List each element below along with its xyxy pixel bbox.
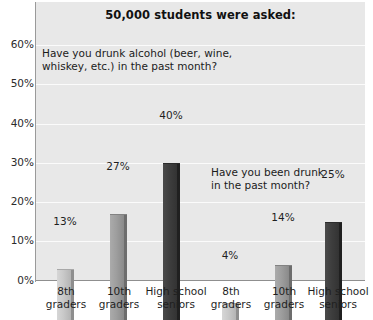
x-label-line2: graders (91, 298, 147, 311)
x-label-line1: 10th (91, 285, 147, 298)
y-tick-20: 20% (2, 196, 34, 206)
bar-cap (57, 269, 74, 270)
bar-value-label: 27% (95, 161, 141, 172)
y-tick-40: 40% (2, 118, 34, 128)
gridline-20 (36, 202, 365, 203)
x-label-group1-8th: 8th graders (38, 285, 94, 310)
x-label-group2-8th: 8th graders (203, 285, 259, 310)
y-tick-30: 30% (2, 157, 34, 167)
question-drunk-line2: in the past month? (211, 179, 341, 192)
x-label-group2-seniors: High school seniors (302, 285, 373, 310)
chart-title: 50,000 students were asked: (36, 8, 365, 22)
x-label-group1-seniors: High school seniors (140, 285, 212, 310)
x-label-line1: High school (140, 285, 212, 298)
question-alcohol-line2: whiskey, etc.) in the past month? (42, 60, 247, 73)
gridline-30 (36, 163, 365, 164)
gridline-50 (36, 84, 365, 85)
x-label-line1: 8th (38, 285, 94, 298)
bar-cap (110, 214, 127, 215)
x-label-line1: High school (302, 285, 373, 298)
gridline-40 (36, 124, 365, 125)
x-label-line2: seniors (140, 298, 212, 311)
x-label-group1-10th: 10th graders (91, 285, 147, 310)
bar-value-label: 14% (260, 212, 306, 223)
y-tick-50: 50% (2, 78, 34, 88)
bar-cap (325, 222, 342, 223)
y-tick-0: 0% (2, 275, 34, 285)
x-label-line2: seniors (302, 298, 373, 311)
x-label-line2: graders (38, 298, 94, 311)
bar-cap (163, 163, 180, 164)
bar-chart: 60% 50% 40% 30% 20% 10% 0% 50,000 studen… (0, 0, 373, 320)
gridline-60 (36, 45, 365, 46)
bar-value-label: 13% (42, 216, 88, 227)
x-label-line1: 8th (203, 285, 259, 298)
x-label-line2: graders (203, 298, 259, 311)
y-axis-line (35, 2, 36, 282)
y-tick-10: 10% (2, 235, 34, 245)
plot-area (36, 2, 365, 280)
bar-cap (275, 265, 292, 266)
question-alcohol-line1: Have you drunk alcohol (beer, wine, (42, 47, 247, 60)
x-axis-line (36, 280, 365, 281)
question-drunk: Have you been drunk in the past month? (211, 166, 341, 192)
question-drunk-line1: Have you been drunk (211, 166, 341, 179)
gridline-10 (36, 241, 365, 242)
question-alcohol: Have you drunk alcohol (beer, wine, whis… (42, 47, 247, 73)
y-tick-60: 60% (2, 39, 34, 49)
bar-value-label: 4% (207, 250, 253, 261)
bar-value-label: 40% (148, 110, 194, 121)
